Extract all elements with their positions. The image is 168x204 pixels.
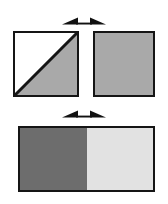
double-headed-arrow-icon [62, 15, 106, 27]
solid-gray-square [93, 31, 155, 97]
diagram-canvas [0, 0, 168, 204]
arrow-head-left [62, 18, 78, 25]
double-headed-arrow-glyph [62, 15, 106, 27]
arrow-head-right [90, 111, 106, 118]
double-headed-arrow-glyph [62, 108, 106, 120]
half-shaded-square [13, 31, 79, 97]
arrow-shaft [76, 23, 92, 25]
double-headed-arrow-icon [62, 108, 106, 120]
diagonal-split-fill [15, 33, 77, 95]
arrow-head-left [62, 111, 78, 118]
arrow-shaft [76, 116, 92, 118]
rectangle-left-half [20, 128, 87, 190]
rectangle-right-half [87, 128, 154, 190]
arrow-head-right [90, 18, 106, 25]
two-tone-rectangle [18, 126, 155, 192]
